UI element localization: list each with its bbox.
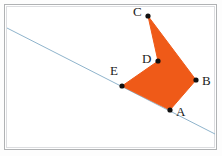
- figure-canvas: ABCDE: [0, 0, 222, 156]
- geometry-svg: [0, 0, 222, 156]
- vertex-dot-e: [119, 83, 124, 88]
- vertex-label-a: A: [176, 105, 185, 118]
- vertex-label-d: D: [142, 52, 151, 65]
- vertex-dot-a: [167, 107, 172, 112]
- vertex-label-e: E: [110, 64, 118, 77]
- vertex-dot-d: [155, 58, 160, 63]
- vertex-dot-c: [145, 13, 150, 18]
- vertex-label-b: B: [202, 74, 211, 87]
- vertex-label-c: C: [133, 5, 142, 18]
- vertex-dot-b: [193, 77, 198, 82]
